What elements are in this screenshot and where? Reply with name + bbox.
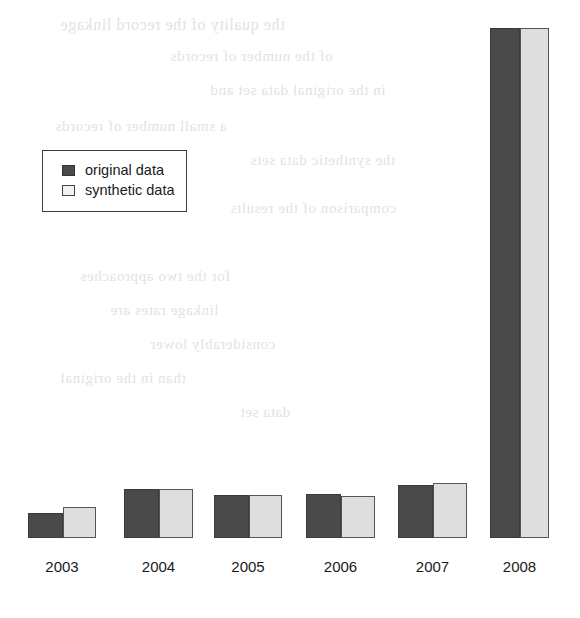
- bar-group-2005: [214, 28, 282, 538]
- bar-synthetic-2005[interactable]: [249, 495, 282, 538]
- bar-group-2003: [28, 28, 96, 538]
- bar-synthetic-2007[interactable]: [433, 483, 467, 538]
- bar-synthetic-2006[interactable]: [341, 496, 375, 538]
- legend-item-original-data[interactable]: original data: [62, 161, 164, 179]
- legend-label-original-data: original data: [85, 163, 164, 178]
- bar-original-2008[interactable]: [490, 28, 520, 538]
- bar-chart-figure: the quality of the record linkage of the…: [0, 0, 580, 618]
- bar-original-2006[interactable]: [306, 494, 341, 538]
- plot-area: 2003 2004 2005 2006 2007 2008: [0, 0, 580, 618]
- bar-group-2004: [124, 28, 193, 538]
- bar-synthetic-2004[interactable]: [159, 489, 193, 538]
- x-tick-label-2005: 2005: [214, 558, 282, 575]
- bar-group-2007: [398, 28, 467, 538]
- x-tick-label-2003: 2003: [28, 558, 96, 575]
- x-tick-label-2006: 2006: [306, 558, 375, 575]
- legend-label-synthetic-data: synthetic data: [85, 183, 174, 198]
- x-tick-label-2004: 2004: [124, 558, 193, 575]
- x-tick-label-2007: 2007: [398, 558, 467, 575]
- bar-group-2008: [490, 28, 549, 538]
- bar-original-2004[interactable]: [124, 489, 159, 538]
- bar-original-2005[interactable]: [214, 495, 249, 538]
- bar-group-2006: [306, 28, 375, 538]
- bar-synthetic-2003[interactable]: [63, 507, 96, 538]
- bar-original-2007[interactable]: [398, 485, 433, 538]
- bar-synthetic-2008[interactable]: [520, 28, 549, 538]
- legend-swatch-dark-icon: [62, 165, 75, 176]
- x-tick-label-2008: 2008: [490, 558, 549, 575]
- chart-legend: original data synthetic data: [42, 150, 187, 212]
- legend-swatch-light-icon: [62, 185, 75, 196]
- legend-item-synthetic-data[interactable]: synthetic data: [62, 181, 174, 199]
- bar-original-2003[interactable]: [28, 513, 63, 539]
